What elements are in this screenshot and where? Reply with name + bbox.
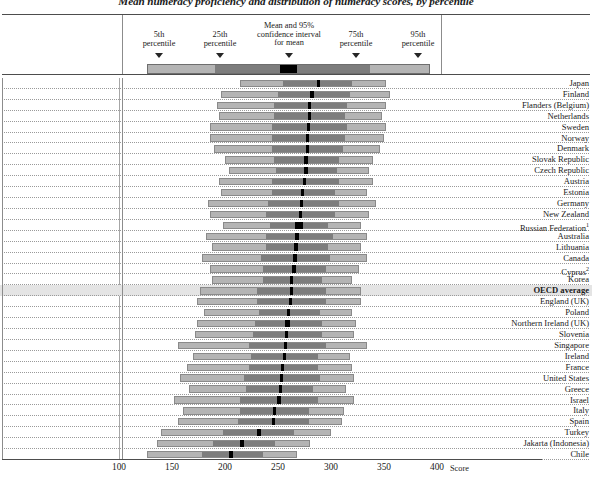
mean-confidence-interval-marker[interactable]	[287, 309, 290, 316]
mean-confidence-interval-marker[interactable]	[293, 254, 296, 261]
mean-confidence-interval-marker[interactable]	[306, 145, 309, 152]
percentile-bar[interactable]	[178, 342, 367, 349]
mean-confidence-interval-marker[interactable]	[303, 178, 306, 185]
chart-row[interactable]: Northern Ireland (UK)	[0, 318, 592, 329]
mean-confidence-interval-marker[interactable]	[283, 353, 286, 360]
chart-row[interactable]: Poland	[0, 307, 592, 318]
percentile-bar[interactable]	[214, 145, 379, 152]
chart-row[interactable]: Cyprus2	[0, 264, 592, 275]
percentile-bar[interactable]	[183, 407, 344, 414]
chart-row[interactable]: Sweden	[0, 122, 592, 133]
mean-confidence-interval-marker[interactable]	[290, 276, 293, 283]
percentile-bar[interactable]	[208, 200, 375, 207]
mean-confidence-interval-marker[interactable]	[277, 396, 280, 403]
chart-row[interactable]: Jakarta (Indonesia)	[0, 438, 592, 449]
percentile-bar[interactable]	[147, 451, 298, 458]
percentile-bar[interactable]	[189, 385, 346, 392]
percentile-bar[interactable]	[197, 298, 360, 305]
percentile-bar[interactable]	[219, 112, 382, 119]
mean-confidence-interval-marker[interactable]	[240, 440, 243, 447]
chart-row[interactable]: Canada	[0, 253, 592, 264]
percentile-bar[interactable]	[240, 80, 386, 87]
chart-row[interactable]: Slovenia	[0, 329, 592, 340]
percentile-bar[interactable]	[221, 189, 367, 196]
mean-confidence-interval-marker[interactable]	[299, 211, 302, 218]
chart-row[interactable]: Netherlands	[0, 111, 592, 122]
chart-row[interactable]: Ireland	[0, 351, 592, 362]
chart-row[interactable]: New Zealand	[0, 209, 592, 220]
percentile-bar[interactable]	[195, 331, 354, 338]
mean-confidence-interval-marker[interactable]	[310, 91, 313, 98]
percentile-bar[interactable]	[225, 156, 373, 163]
chart-row[interactable]: Russian Federation1	[0, 220, 592, 231]
mean-confidence-interval-marker[interactable]	[279, 385, 282, 392]
mean-confidence-interval-marker[interactable]	[272, 418, 275, 425]
chart-row[interactable]: England (UK)	[0, 296, 592, 307]
percentile-bar[interactable]	[204, 309, 352, 316]
mean-confidence-interval-marker[interactable]	[301, 189, 304, 196]
mean-confidence-interval-marker[interactable]	[280, 374, 283, 381]
percentile-bar[interactable]	[212, 243, 360, 250]
chart-row[interactable]: France	[0, 362, 592, 373]
percentile-bar[interactable]	[223, 222, 361, 229]
percentile-bar[interactable]	[180, 374, 354, 381]
percentile-bar[interactable]	[174, 396, 354, 403]
percentile-bar[interactable]	[187, 364, 352, 371]
mean-confidence-interval-marker[interactable]	[317, 80, 320, 87]
mean-confidence-interval-marker[interactable]	[295, 233, 298, 240]
mean-confidence-interval-marker[interactable]	[290, 287, 293, 294]
chart-row[interactable]: Finland	[0, 89, 592, 100]
mean-confidence-interval-marker[interactable]	[294, 243, 298, 250]
chart-row[interactable]: Japan	[0, 78, 592, 89]
percentile-bar[interactable]	[157, 440, 310, 447]
chart-row[interactable]: Spain	[0, 416, 592, 427]
mean-confidence-interval-marker[interactable]	[289, 298, 292, 305]
mean-confidence-interval-marker[interactable]	[257, 429, 261, 436]
percentile-bar[interactable]	[221, 91, 391, 98]
mean-confidence-interval-marker[interactable]	[285, 320, 289, 327]
mean-confidence-interval-marker[interactable]	[285, 331, 288, 338]
mean-confidence-interval-marker[interactable]	[292, 265, 296, 272]
percentile-bar[interactable]	[217, 102, 387, 109]
chart-row[interactable]: Slovak Republic	[0, 154, 592, 165]
mean-confidence-interval-marker[interactable]	[308, 102, 311, 109]
chart-row[interactable]: Czech Republic	[0, 165, 592, 176]
chart-row[interactable]: Korea	[0, 274, 592, 285]
percentile-bar[interactable]	[219, 178, 374, 185]
chart-row[interactable]: United States	[0, 373, 592, 384]
chart-row[interactable]: Denmark	[0, 143, 592, 154]
percentile-bar[interactable]	[210, 134, 384, 141]
percentile-bar[interactable]	[197, 320, 356, 327]
percentile-bar[interactable]	[200, 287, 361, 294]
chart-row[interactable]: Singapore	[0, 340, 592, 351]
mean-confidence-interval-marker[interactable]	[273, 407, 276, 414]
chart-row[interactable]: Lithuania	[0, 242, 592, 253]
chart-row[interactable]: Germany	[0, 198, 592, 209]
chart-row[interactable]: Flanders (Belgium)	[0, 100, 592, 111]
mean-confidence-interval-marker[interactable]	[306, 134, 309, 141]
percentile-bar[interactable]	[210, 265, 358, 272]
mean-confidence-interval-marker[interactable]	[308, 112, 311, 119]
mean-confidence-interval-marker[interactable]	[304, 156, 308, 163]
chart-row[interactable]: Estonia	[0, 187, 592, 198]
percentile-bar[interactable]	[193, 353, 350, 360]
chart-row[interactable]: Israel	[0, 395, 592, 406]
percentile-bar[interactable]	[202, 254, 367, 261]
percentile-bar[interactable]	[210, 123, 386, 130]
mean-confidence-interval-marker[interactable]	[229, 451, 233, 458]
chart-row[interactable]: OECD average	[0, 285, 592, 296]
chart-row[interactable]: Greece	[0, 384, 592, 395]
percentile-bar[interactable]	[178, 418, 341, 425]
mean-confidence-interval-marker[interactable]	[295, 222, 303, 229]
chart-row[interactable]: Austria	[0, 176, 592, 187]
percentile-bar[interactable]	[229, 167, 369, 174]
percentile-bar[interactable]	[212, 276, 352, 283]
mean-confidence-interval-marker[interactable]	[284, 342, 287, 349]
chart-row[interactable]: Australia	[0, 231, 592, 242]
percentile-bar[interactable]	[161, 429, 331, 436]
mean-confidence-interval-marker[interactable]	[300, 200, 303, 207]
chart-row[interactable]: Italy	[0, 405, 592, 416]
chart-row[interactable]: Norway	[0, 133, 592, 144]
chart-row[interactable]: Turkey	[0, 427, 592, 438]
mean-confidence-interval-marker[interactable]	[307, 123, 310, 130]
